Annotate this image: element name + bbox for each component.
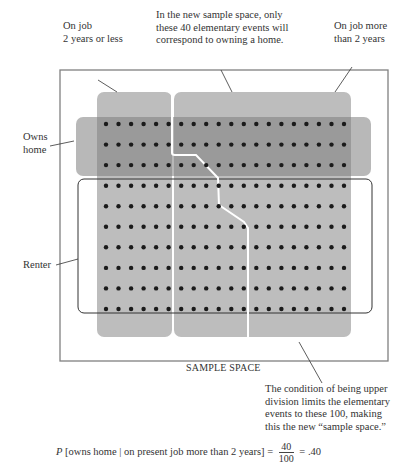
- event-dot: [179, 163, 183, 167]
- event-dot: [292, 266, 296, 270]
- event-dot: [154, 163, 158, 167]
- formula-denominator: 100: [279, 453, 294, 464]
- event-dot: [179, 225, 183, 229]
- event-dot: [342, 266, 346, 270]
- event-dot: [116, 122, 120, 126]
- arrow-condition: [299, 342, 322, 383]
- event-dot: [242, 184, 246, 188]
- event-dot: [104, 286, 108, 290]
- event-dot: [204, 142, 208, 146]
- event-dot: [179, 122, 183, 126]
- event-dot: [317, 122, 321, 126]
- event-dot: [229, 142, 233, 146]
- event-dot: [254, 122, 258, 126]
- event-dot: [129, 286, 133, 290]
- event-dot: [192, 245, 196, 249]
- event-dot: [141, 307, 145, 311]
- event-dot: [329, 122, 333, 126]
- event-dot: [267, 307, 271, 311]
- event-dot: [254, 142, 258, 146]
- event-dot: [141, 266, 145, 270]
- event-dot: [329, 245, 333, 249]
- event-dot: [129, 142, 133, 146]
- event-dot: [192, 122, 196, 126]
- event-dot: [217, 245, 221, 249]
- event-dot: [116, 204, 120, 208]
- event-dot: [342, 225, 346, 229]
- formula-numerator: 40: [279, 441, 294, 453]
- event-dot: [242, 225, 246, 229]
- event-dot: [229, 184, 233, 188]
- event-dot: [317, 163, 321, 167]
- event-dot: [141, 122, 145, 126]
- event-dot: [154, 266, 158, 270]
- event-dot: [116, 245, 120, 249]
- event-dot: [116, 286, 120, 290]
- event-dot: [329, 163, 333, 167]
- event-dot: [229, 307, 233, 311]
- event-dot: [329, 184, 333, 188]
- owns-home-band: [76, 117, 371, 176]
- event-dot: [204, 245, 208, 249]
- event-dot: [104, 245, 108, 249]
- event-dot: [192, 266, 196, 270]
- event-dot: [166, 163, 170, 167]
- event-dot: [129, 266, 133, 270]
- event-dot: [254, 307, 258, 311]
- event-dot: [317, 266, 321, 270]
- event-dot: [104, 225, 108, 229]
- event-dot: [179, 307, 183, 311]
- event-dot: [279, 225, 283, 229]
- event-dot: [342, 142, 346, 146]
- event-dot: [229, 163, 233, 167]
- event-dot: [304, 163, 308, 167]
- event-dot: [229, 225, 233, 229]
- event-dot: [217, 163, 221, 167]
- event-dot: [267, 225, 271, 229]
- event-dot: [141, 245, 145, 249]
- event-dot: [204, 286, 208, 290]
- event-dot: [317, 245, 321, 249]
- event-dot: [317, 142, 321, 146]
- event-dot: [342, 122, 346, 126]
- event-dot: [304, 286, 308, 290]
- event-dot: [304, 307, 308, 311]
- arrow-owns-home: [50, 141, 74, 146]
- arrow-new-space: [221, 70, 232, 92]
- event-dot: [292, 163, 296, 167]
- event-dot: [129, 204, 133, 208]
- event-dot: [141, 225, 145, 229]
- event-dot: [292, 184, 296, 188]
- event-dot: [179, 184, 183, 188]
- arrow-renter: [56, 259, 78, 265]
- event-dot: [179, 142, 183, 146]
- event-dot: [267, 163, 271, 167]
- label-condition-note: The condition of being upper division li…: [265, 383, 390, 433]
- event-dot: [179, 204, 183, 208]
- event-dot: [292, 142, 296, 146]
- event-dot: [229, 245, 233, 249]
- event-dot: [166, 286, 170, 290]
- event-dot: [292, 204, 296, 208]
- event-dot: [304, 184, 308, 188]
- event-dot: [179, 245, 183, 249]
- event-dot: [342, 307, 346, 311]
- event-dot: [154, 184, 158, 188]
- event-dot: [242, 163, 246, 167]
- event-dot: [304, 122, 308, 126]
- event-dot: [267, 204, 271, 208]
- event-dot: [166, 142, 170, 146]
- event-dot: [242, 122, 246, 126]
- event-dot: [329, 142, 333, 146]
- event-dot: [104, 184, 108, 188]
- event-dot: [304, 245, 308, 249]
- event-dot: [342, 245, 346, 249]
- event-dot: [166, 266, 170, 270]
- event-dot: [329, 286, 333, 290]
- event-dot: [292, 122, 296, 126]
- event-dot: [104, 266, 108, 270]
- event-dot: [217, 266, 221, 270]
- label-job-short: On job 2 years or less: [63, 20, 123, 45]
- event-dot: [292, 286, 296, 290]
- event-dot: [166, 307, 170, 311]
